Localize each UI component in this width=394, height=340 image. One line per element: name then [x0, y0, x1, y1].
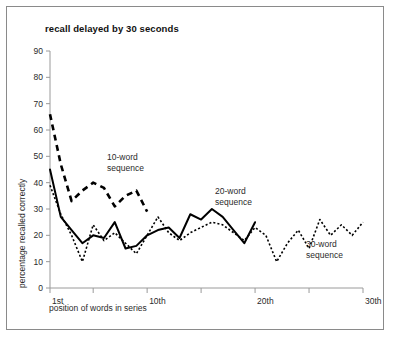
x-tick-label-30th: 30th: [365, 296, 382, 306]
line-chart: recall delayed by 30 seconds 01020304050…: [7, 7, 385, 331]
y-axis: 0102030405060708090 percentage recalled …: [17, 46, 50, 293]
x-axis: 1st10th20th30th position of words in ser…: [49, 288, 382, 313]
annotation-30-word-line1: 30-word: [306, 239, 337, 249]
series-annotations: 10-word sequence 20-word sequence 30-wor…: [107, 152, 343, 260]
chart-title: recall delayed by 30 seconds: [45, 23, 179, 34]
x-axis-title: position of words in series: [49, 303, 147, 313]
y-tick-label-70: 70: [34, 99, 44, 109]
x-tick-label-10th: 10th: [149, 296, 166, 306]
annotation-20-word-line1: 20-word: [215, 186, 246, 196]
annotation-30-word-line2: sequence: [306, 250, 343, 260]
x-tick-marks: [50, 288, 363, 293]
figure-frame: recall delayed by 30 seconds 01020304050…: [6, 6, 384, 330]
x-tick-label-20th: 20th: [257, 296, 274, 306]
y-tick-label-60: 60: [34, 125, 44, 135]
y-axis-title: percentage recalled correctly: [17, 178, 27, 288]
annotation-10-word-line2: sequence: [107, 163, 144, 173]
y-tick-label-80: 80: [34, 72, 44, 82]
series-line-20-word: [50, 170, 255, 249]
annotation-10-word-line1: 10-word: [107, 152, 138, 162]
y-tick-label-90: 90: [34, 46, 44, 56]
chart-container: recall delayed by 30 seconds 01020304050…: [7, 7, 385, 331]
y-tick-label-10: 10: [34, 257, 44, 267]
y-tick-label-40: 40: [34, 178, 44, 188]
y-tick-label-20: 20: [34, 230, 44, 240]
annotation-20-word-line2: sequence: [215, 197, 252, 207]
y-tick-label-30: 30: [34, 204, 44, 214]
y-tick-labels: 0102030405060708090: [34, 46, 44, 293]
y-tick-label-0: 0: [38, 283, 43, 293]
y-tick-label-50: 50: [34, 151, 44, 161]
